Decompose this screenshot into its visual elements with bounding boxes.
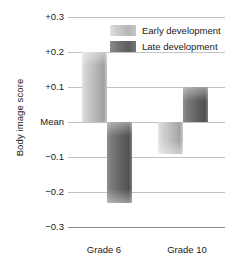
legend: Early development Late development: [110, 24, 221, 56]
late-development-swatch-icon: [110, 41, 136, 52]
y-tick-label-6: −0.3: [16, 222, 64, 232]
y-tick-label-1: +0.2: [16, 47, 64, 57]
bar-shadow: [107, 189, 132, 203]
y-tick-label-4: −0.1: [16, 152, 64, 162]
x-tick-label-grade10: Grade 10: [147, 244, 227, 255]
y-tick-label-0: +0.3: [16, 12, 64, 22]
bar-shadow: [158, 140, 183, 154]
gridline--0.2: [68, 192, 225, 193]
bar-highlight: [82, 52, 107, 66]
bar-grade10-late[interactable]: [183, 87, 208, 122]
bar-grade6-early[interactable]: [82, 52, 107, 122]
y-tick-label-2: +0.1: [16, 82, 64, 92]
bar-grade10-early[interactable]: [158, 122, 183, 154]
gridline-0.3: [68, 17, 225, 18]
early-development-swatch-icon: [110, 25, 136, 36]
legend-label-late: Late development: [142, 41, 218, 52]
y-tick-label-3: Mean: [16, 117, 64, 127]
bar-highlight: [107, 122, 132, 136]
bar-grade6-late[interactable]: [107, 122, 132, 203]
gridline--0.1: [68, 157, 225, 158]
gridline-mean: [68, 122, 225, 123]
bar-chart: Body image score +0.3 +0.2 +0.1 Mean −0.…: [0, 0, 242, 273]
legend-label-early: Early development: [142, 25, 221, 36]
y-tick-label-5: −0.2: [16, 187, 64, 197]
x-tick-label-grade6: Grade 6: [64, 244, 144, 255]
legend-item-early[interactable]: Early development: [110, 24, 221, 37]
gridline--0.3: [68, 227, 225, 228]
legend-item-late[interactable]: Late development: [110, 40, 221, 53]
bar-highlight: [183, 87, 208, 101]
